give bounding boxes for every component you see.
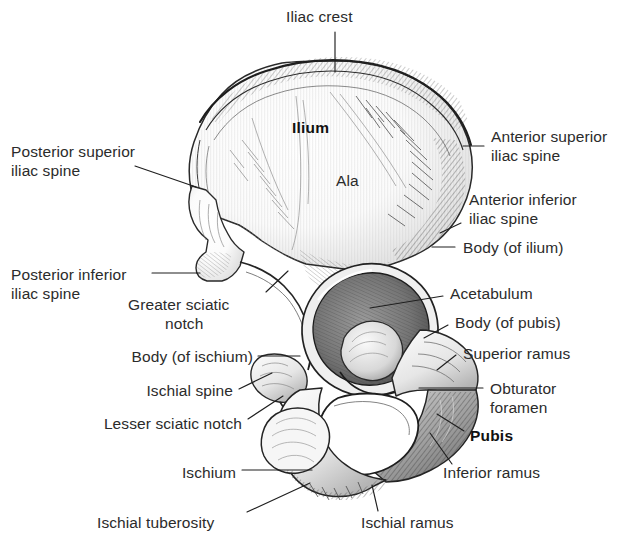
leader-posterior-superior-iliac-spine — [135, 166, 196, 187]
label-ilium: Ilium — [292, 119, 329, 138]
label-ischial-spine: Ischial spine — [53, 382, 233, 401]
figure-canvas: Iliac crest Ilium Ala Posterior superior… — [0, 0, 635, 542]
label-obturator-foramen: Obturatorforamen — [490, 380, 556, 417]
label-body-of-ischium: Body (of ischium) — [53, 348, 253, 367]
label-posterior-inferior-iliac-spine: Posterior inferioriliac spine — [11, 266, 127, 303]
label-anterior-superior-iliac-spine: Anterior superioriliac spine — [491, 128, 607, 165]
label-greater-sciatic-notch: Greater sciaticnotch — [128, 296, 229, 333]
label-ala: Ala — [336, 172, 359, 191]
label-body-of-pubis: Body (of pubis) — [455, 314, 561, 333]
label-superior-ramus: Superior ramus — [463, 345, 570, 364]
label-lesser-sciatic-notch: Lesser sciatic notch — [42, 415, 242, 434]
label-body-of-ilium: Body (of ilium) — [463, 239, 564, 258]
label-inferior-ramus: Inferior ramus — [443, 464, 540, 483]
label-pubis: Pubis — [470, 427, 513, 446]
label-posterior-superior-iliac-spine: Posterior superioriliac spine — [11, 143, 135, 180]
label-ischial-tuberosity: Ischial tuberosity — [97, 514, 214, 533]
label-anterior-inferior-iliac-spine: Anterior inferioriliac spine — [469, 191, 577, 228]
label-iliac-crest: Iliac crest — [286, 8, 353, 27]
label-ischial-ramus: Ischial ramus — [361, 514, 454, 533]
leader-ischial-tuberosity — [247, 483, 310, 512]
label-ischium: Ischium — [66, 464, 236, 483]
label-acetabulum: Acetabulum — [450, 285, 533, 304]
